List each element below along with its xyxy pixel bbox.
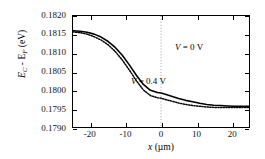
x-tick-mark-top: [198, 16, 199, 20]
y-tick-mark-right: [245, 35, 249, 36]
annotation-v-0v: V = 0 V: [175, 42, 203, 52]
y-tick-mark-right: [245, 73, 249, 74]
x-tick-label: -20: [75, 130, 105, 139]
y-tick-label: 0.1795: [0, 105, 66, 114]
y-tick-mark: [73, 73, 77, 74]
y-tick-mark-right: [245, 54, 249, 55]
x-axis-title-units: (µm): [152, 142, 174, 152]
y-tick-mark: [73, 16, 77, 17]
y-tick-mark: [73, 91, 77, 92]
series-line-v0: [73, 31, 249, 106]
y-axis-title-ec: E: [17, 72, 27, 78]
annotation-v-04v: V = 0.4 V: [131, 76, 166, 86]
x-tick-mark: [233, 123, 234, 127]
y-tick-mark-right: [245, 16, 249, 17]
x-tick-mark-top: [91, 16, 92, 20]
x-tick-mark: [198, 123, 199, 127]
x-tick-mark-top: [162, 16, 163, 20]
y-tick-mark: [73, 54, 77, 55]
y-axis-title-minus: - E: [17, 54, 27, 68]
figure-container: 0.17900.17950.18000.18050.18100.18150.18…: [0, 0, 265, 159]
x-tick-label: 0: [146, 130, 176, 139]
y-tick-label: 0.1815: [0, 29, 66, 38]
x-tick-mark-top: [233, 16, 234, 20]
y-axis-title-units: (eV): [17, 30, 27, 50]
annotation-v-04v-value: = 0.4 V: [137, 76, 166, 86]
y-tick-label: 0.1805: [0, 67, 66, 76]
x-tick-label: 20: [217, 130, 247, 139]
y-tick-mark: [73, 110, 77, 111]
curves-svg: [73, 16, 249, 127]
y-axis-title-sub-f: F: [21, 50, 29, 54]
x-tick-mark-top: [126, 16, 127, 20]
y-tick-mark-right: [245, 110, 249, 111]
x-axis-title: x (µm): [72, 142, 250, 152]
x-tick-mark: [162, 123, 163, 127]
x-tick-mark: [91, 123, 92, 127]
y-tick-label: 0.1820: [0, 11, 66, 20]
x-tick-mark: [126, 123, 127, 127]
y-tick-mark: [73, 35, 77, 36]
y-tick-label: 0.1810: [0, 48, 66, 57]
y-tick-label: 0.1800: [0, 86, 66, 95]
y-axis-title-sub-c: C: [21, 68, 29, 73]
plot-area: V = 0 V V = 0.4 V: [72, 15, 250, 128]
y-axis-title: EC - EF (eV): [17, 0, 29, 109]
y-tick-mark-right: [245, 91, 249, 92]
annotation-v-0v-value: = 0 V: [181, 42, 204, 52]
x-tick-label: 10: [182, 130, 212, 139]
x-tick-label: -10: [110, 130, 140, 139]
y-tick-label: 0.1790: [0, 124, 66, 133]
